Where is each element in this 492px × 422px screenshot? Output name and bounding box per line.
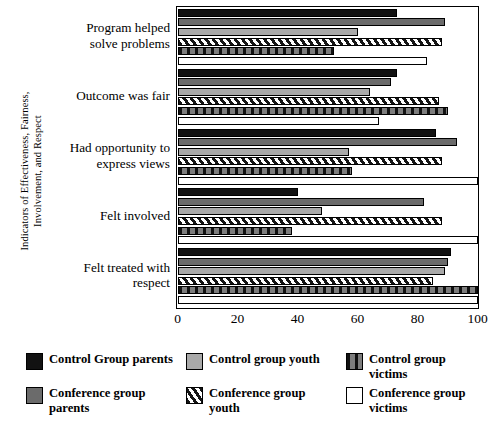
bar-group — [178, 129, 478, 185]
bar — [178, 286, 478, 294]
legend-swatch-icon — [346, 387, 363, 404]
bar — [178, 57, 427, 65]
bar — [178, 177, 478, 185]
x-axis-tick-label: 80 — [398, 311, 438, 327]
bar — [178, 148, 349, 156]
category-label-line: solve problems — [22, 36, 170, 52]
legend-label: Conference group parents — [49, 386, 177, 415]
bar — [178, 258, 448, 266]
category-label-line: express views — [22, 156, 170, 172]
category-label-line: Had opportunity to — [22, 140, 170, 156]
bar — [178, 198, 424, 206]
legend-swatch-icon — [26, 353, 43, 370]
x-axis-tick-label: 20 — [218, 311, 258, 327]
x-axis-tick-label: 0 — [158, 311, 198, 327]
x-axis-tick-label: 40 — [278, 311, 318, 327]
legend-label: Conference group youth — [209, 386, 337, 415]
bar — [178, 227, 292, 235]
category-label: Outcome was fair — [22, 88, 170, 104]
legend-label: Control group youth — [209, 352, 320, 367]
bar — [178, 267, 445, 275]
bar-group — [178, 248, 478, 304]
bar-group — [178, 188, 478, 244]
bar-group — [178, 69, 478, 125]
category-label: Felt involved — [22, 208, 170, 224]
legend-swatch-icon — [186, 353, 203, 370]
category-label: Had opportunity toexpress views — [22, 140, 170, 171]
bars-container — [178, 7, 478, 306]
bar — [178, 277, 433, 285]
bar — [178, 107, 448, 115]
bar — [178, 47, 334, 55]
legend-item: Control group victims — [346, 352, 476, 381]
legend-swatch-icon — [186, 387, 203, 404]
bar — [178, 18, 445, 26]
category-label: Program helpedsolve problems — [22, 20, 170, 51]
bar — [178, 129, 436, 137]
legend-item: Conference group victims — [346, 386, 476, 415]
legend-item: Conference group parents — [26, 386, 177, 415]
category-label-line: Outcome was fair — [22, 88, 170, 104]
bar — [178, 236, 478, 244]
x-axis: 020406080100 — [176, 309, 479, 331]
legend-item: Control group youth — [186, 352, 320, 370]
category-label-line: Program helped — [22, 20, 170, 36]
x-axis-tick-label: 60 — [338, 311, 378, 327]
bar — [178, 69, 397, 77]
bar — [178, 117, 379, 125]
legend-swatch-icon — [26, 387, 43, 404]
bar — [178, 88, 370, 96]
bar — [178, 248, 451, 256]
category-labels: Program helpedsolve problemsOutcome was … — [22, 6, 172, 309]
bar — [178, 167, 352, 175]
legend-label: Conference group victims — [369, 386, 476, 415]
bar — [178, 296, 478, 304]
plot-area — [176, 6, 479, 309]
category-label-line: Felt involved — [22, 208, 170, 224]
legend-label: Control Group parents — [49, 352, 173, 367]
legend-swatch-icon — [346, 353, 363, 370]
category-label-line: respect — [22, 275, 170, 291]
bar — [178, 157, 442, 165]
bar — [178, 188, 298, 196]
bar — [178, 9, 397, 17]
bar — [178, 38, 442, 46]
x-axis-tick-label: 100 — [458, 311, 492, 327]
bar — [178, 28, 358, 36]
bar — [178, 207, 322, 215]
bar — [178, 78, 391, 86]
category-label: Felt treated withrespect — [22, 260, 170, 291]
legend-item: Conference group youth — [186, 386, 337, 415]
category-label-line: Felt treated with — [22, 260, 170, 276]
bar — [178, 138, 457, 146]
chart-legend: Control Group parentsControl group youth… — [26, 352, 476, 418]
bar — [178, 97, 439, 105]
legend-item: Control Group parents — [26, 352, 173, 370]
legend-label: Control group victims — [369, 352, 476, 381]
bar-group — [178, 9, 478, 65]
bar — [178, 217, 442, 225]
